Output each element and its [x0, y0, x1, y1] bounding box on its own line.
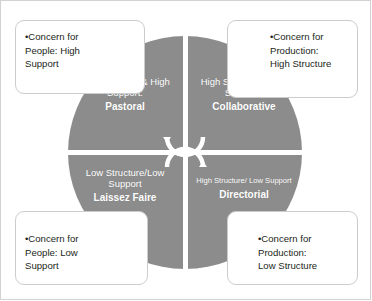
- callout-concern-production-high-text: •Concern for Production: High Structure: [270, 30, 362, 71]
- callout-concern-people-low-text: •Concern for People: Low Support: [25, 232, 137, 273]
- callout-concern-production-low[interactable]: •Concern for Production: Low Structure: [227, 211, 358, 285]
- quadrant-laissez-faire: Low Structure/Low Support Laissez Faire: [71, 167, 179, 204]
- horizontal-divider: [66, 150, 304, 155]
- quadrant-directorial: High Structure/ Low Support Directorial: [190, 177, 298, 201]
- callout-concern-people-high[interactable]: •Concern for People: High Support: [15, 20, 145, 94]
- callout-concern-production-high[interactable]: •Concern for Production: High Structure: [227, 20, 358, 98]
- callout-concern-people-high-text: •Concern for People: High Support: [25, 30, 137, 71]
- leadership-quadrant-diagram: Low Structure & High Support: Pastoral H…: [0, 0, 372, 301]
- quadrant-laissez-faire-label: Laissez Faire: [71, 192, 179, 204]
- quadrant-directorial-label: Directorial: [190, 189, 298, 201]
- quadrant-directorial-description: High Structure/ Low Support: [190, 177, 298, 186]
- callout-concern-people-low[interactable]: •Concern for People: Low Support: [15, 211, 148, 285]
- quadrant-collaborative-label: Collaborative: [190, 101, 298, 113]
- quadrant-pastoral-label: Pastoral: [71, 101, 179, 113]
- quadrant-laissez-faire-description: Low Structure/Low Support: [71, 167, 179, 189]
- callout-concern-production-low-text: •Concern for Production: Low Structure: [258, 232, 362, 273]
